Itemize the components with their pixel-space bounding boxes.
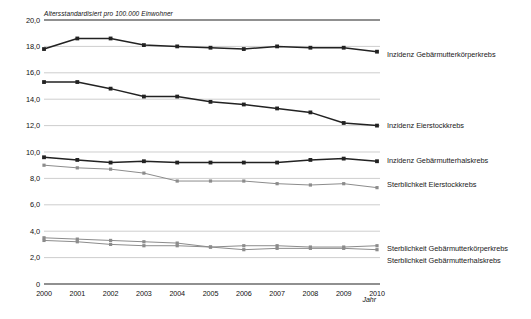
y-axis-tick-labels: 02,04,06,08,010,012,014,016,018,020,0 <box>26 16 40 289</box>
series-line <box>44 38 377 51</box>
data-point-marker <box>109 243 112 246</box>
data-point-marker <box>242 47 246 51</box>
data-point-marker <box>342 182 345 185</box>
data-point-marker <box>276 182 279 185</box>
data-point-marker <box>275 161 279 165</box>
series-3 <box>42 164 378 190</box>
data-point-marker <box>342 46 346 50</box>
data-point-marker <box>242 103 246 107</box>
data-point-marker <box>375 50 379 54</box>
y-tick-label: 8,0 <box>30 174 40 183</box>
data-point-marker <box>375 244 378 247</box>
x-tick-label-2007: 2007 <box>269 289 285 298</box>
data-point-marker <box>109 37 113 41</box>
data-point-marker <box>375 124 379 128</box>
gridlines-group <box>44 20 380 284</box>
data-point-marker <box>109 161 113 165</box>
data-point-marker <box>42 80 46 84</box>
data-point-marker <box>142 172 145 175</box>
data-point-marker <box>309 111 313 115</box>
x-tick-label-2008: 2008 <box>303 289 319 298</box>
legend-item-4: Sterblichkeit Gebärmutterkörperkrebs <box>387 244 508 253</box>
data-point-marker <box>76 166 79 169</box>
data-point-marker <box>75 80 79 84</box>
data-point-marker <box>309 183 312 186</box>
data-point-marker <box>342 247 345 250</box>
x-tick-label-2006: 2006 <box>236 289 252 298</box>
data-point-marker <box>309 46 313 50</box>
y-tick-label: 20,0 <box>26 16 40 25</box>
data-point-marker <box>209 161 213 165</box>
data-point-marker <box>342 157 346 161</box>
data-point-marker <box>176 179 179 182</box>
data-point-marker <box>175 161 179 165</box>
data-point-marker <box>209 46 213 50</box>
y-tick-label: 4,0 <box>30 227 40 236</box>
data-series-group <box>42 37 379 252</box>
data-point-marker <box>242 248 245 251</box>
y-tick-label: 2,0 <box>30 253 40 262</box>
data-point-marker <box>175 95 179 99</box>
data-point-marker <box>375 186 378 189</box>
y-tick-label: 14,0 <box>26 95 40 104</box>
y-tick-label: 12,0 <box>26 121 40 130</box>
data-point-marker <box>342 121 346 125</box>
cancer-incidence-mortality-line-chart: 02,04,06,08,010,012,014,016,018,020,0 Al… <box>0 0 531 319</box>
data-point-marker <box>242 244 245 247</box>
data-point-marker <box>176 244 179 247</box>
x-tick-label-2001: 2001 <box>70 289 86 298</box>
chart-plot-area: 02,04,06,08,010,012,014,016,018,020,0 Al… <box>0 0 531 319</box>
y-tick-label: 6,0 <box>30 200 40 209</box>
x-tick-label-2004: 2004 <box>169 289 185 298</box>
data-point-marker <box>142 240 145 243</box>
data-point-marker <box>42 155 46 159</box>
x-tick-label-2000: 2000 <box>36 289 52 298</box>
series-0 <box>42 37 379 54</box>
y-tick-label: 16,0 <box>26 68 40 77</box>
data-point-marker <box>209 100 213 104</box>
series-line <box>44 82 377 126</box>
data-point-marker <box>309 158 313 162</box>
data-point-marker <box>42 239 45 242</box>
data-point-marker <box>375 248 378 251</box>
data-point-marker <box>109 239 112 242</box>
legend-item-3: Sterblichkeit Eierstockkrebs <box>387 180 477 189</box>
data-point-marker <box>42 164 45 167</box>
legend-item-1: Inzidenz Eierstockkrebs <box>387 121 464 130</box>
data-point-marker <box>42 47 46 51</box>
series-1 <box>42 80 379 127</box>
chart-subtitle: Altersstandardisiert pro 100.000 Einwohn… <box>43 10 174 18</box>
data-point-marker <box>109 87 113 91</box>
data-point-marker <box>175 45 179 49</box>
x-axis-tick-labels: 2000200120022003200420052006200720082009… <box>36 289 385 298</box>
data-point-marker <box>142 244 145 247</box>
legend-group: Inzidenz GebärmutterkörperkrebsInzidenz … <box>387 50 508 265</box>
x-tick-label-2005: 2005 <box>203 289 219 298</box>
data-point-marker <box>142 95 146 99</box>
x-axis-title: Jahr <box>361 296 376 303</box>
data-point-marker <box>142 43 146 47</box>
y-tick-label: 0 <box>36 280 40 289</box>
x-tick-label-2003: 2003 <box>136 289 152 298</box>
y-tick-label: 18,0 <box>26 42 40 51</box>
series-2 <box>42 155 379 164</box>
data-point-marker <box>242 161 246 165</box>
data-point-marker <box>242 179 245 182</box>
legend-item-0: Inzidenz Gebärmutterkörperkrebs <box>387 50 496 59</box>
data-point-marker <box>209 245 212 248</box>
x-tick-label-2009: 2009 <box>336 289 352 298</box>
data-point-marker <box>142 159 146 163</box>
y-tick-label: 10,0 <box>26 148 40 157</box>
series-line <box>44 165 377 187</box>
data-point-marker <box>75 158 79 162</box>
data-point-marker <box>275 45 279 49</box>
data-point-marker <box>76 240 79 243</box>
data-point-marker <box>375 159 379 163</box>
legend-item-5: Sterblichkeit Gebärmutterhalskrebs <box>387 256 501 265</box>
data-point-marker <box>209 179 212 182</box>
x-tick-label-2002: 2002 <box>103 289 119 298</box>
series-5 <box>42 239 378 251</box>
legend-item-2: Inzidenz Gebärmutterhalskrebs <box>387 156 489 165</box>
data-point-marker <box>75 37 79 41</box>
data-point-marker <box>276 247 279 250</box>
